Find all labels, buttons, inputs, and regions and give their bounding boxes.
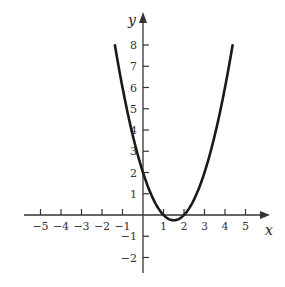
x-tick-label: −2 bbox=[94, 220, 110, 233]
y-tick-label: 6 bbox=[130, 82, 137, 95]
y-tick-label: 8 bbox=[130, 39, 137, 52]
x-tick-label: 5 bbox=[242, 220, 249, 233]
y-tick-label: 7 bbox=[130, 60, 137, 73]
x-tick-label: −4 bbox=[53, 220, 69, 233]
axes bbox=[24, 12, 270, 273]
x-tick-label: 3 bbox=[201, 220, 208, 233]
x-tick-label: −5 bbox=[32, 220, 48, 233]
x-tick-label: 2 bbox=[181, 220, 188, 233]
x-tick-label: 4 bbox=[222, 220, 229, 233]
ticks: −5−4−3−2−112345−2−112345678 bbox=[32, 39, 249, 265]
y-tick-label: 1 bbox=[130, 188, 137, 201]
y-tick-label: −1 bbox=[121, 230, 137, 243]
y-axis-label: y bbox=[127, 12, 137, 28]
x-axis-label: x bbox=[265, 222, 273, 238]
y-axis-arrow-icon bbox=[139, 12, 147, 23]
y-tick-label: 5 bbox=[130, 103, 137, 116]
parabola-chart: −5−4−3−2−112345−2−112345678 x y bbox=[0, 0, 285, 287]
y-tick-label: 2 bbox=[130, 167, 137, 180]
y-tick-label: −2 bbox=[121, 252, 137, 265]
x-axis-arrow-icon bbox=[260, 211, 270, 219]
x-tick-label: 1 bbox=[160, 220, 167, 233]
x-tick-label: −3 bbox=[73, 220, 89, 233]
